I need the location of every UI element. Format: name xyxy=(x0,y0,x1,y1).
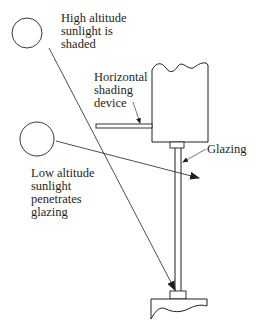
sill-frame xyxy=(170,291,186,299)
glazing-label: Glazing xyxy=(207,143,247,156)
glazing-leader xyxy=(183,149,206,162)
high-sun-label: High altitude sunlight is shaded xyxy=(61,12,127,51)
low-sun-label: Low altitude sunlight penetrates glazing xyxy=(31,167,95,219)
low-sun-icon xyxy=(20,122,54,156)
shading-device-label: Horizontal shading device xyxy=(94,71,147,110)
upper-wall xyxy=(152,63,208,142)
lower-wall xyxy=(151,299,207,319)
high-sun-icon xyxy=(12,18,42,48)
shading-device xyxy=(96,124,152,128)
head-frame xyxy=(170,142,184,148)
